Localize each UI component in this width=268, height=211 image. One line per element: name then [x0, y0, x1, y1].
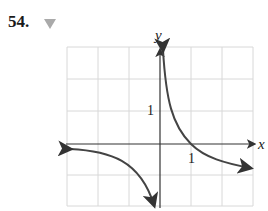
curve-left-branch — [70, 149, 154, 205]
y-axis-label: y — [153, 27, 162, 43]
x-axis-label: x — [257, 136, 265, 152]
x-tick-label: 1 — [188, 151, 195, 166]
curve-right-branch — [163, 50, 250, 168]
y-tick-label: 1 — [147, 103, 154, 118]
graph: y x 1 1 — [0, 0, 268, 211]
